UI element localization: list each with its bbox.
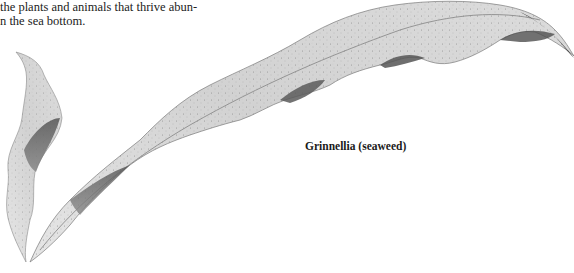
main-blade (30, 1, 574, 262)
book-page: the plants and animals that thrive abun-… (0, 0, 574, 273)
seaweed-illustration (0, 0, 574, 273)
figure-caption: Grinnellia (seaweed) (305, 140, 406, 152)
